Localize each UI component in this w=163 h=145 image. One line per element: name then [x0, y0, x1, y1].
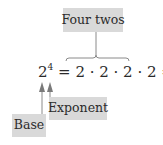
base-text: Base: [14, 119, 44, 132]
brace-icon: [66, 55, 129, 61]
base-label: Base: [12, 114, 46, 137]
base-arrow-icon: [39, 82, 45, 92]
equation: 24 = 2 · 2 · 2 · 2 = 16: [38, 63, 163, 81]
four-twos-text: Four twos: [61, 14, 124, 27]
equation-expansion: 2 · 2 · 2 · 2: [75, 63, 156, 81]
exponent-arrow-icon: [47, 82, 53, 92]
equation-exponent: 4: [48, 62, 54, 72]
equation-base: 2: [38, 63, 48, 81]
equation-equals-2: =: [161, 63, 163, 81]
exponent-text: Exponent: [48, 102, 108, 115]
four-twos-label: Four twos: [63, 8, 123, 32]
equation-equals-1: =: [58, 63, 71, 81]
exponent-label: Exponent: [49, 97, 107, 120]
